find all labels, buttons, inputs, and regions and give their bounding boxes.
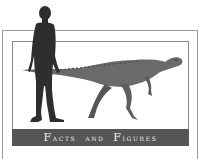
- facts-and-figures-banner: Facts and Figures: [12, 129, 189, 146]
- banner-word1-rest: acts: [53, 133, 76, 143]
- banner-word3-cap: F: [113, 131, 122, 144]
- human-silhouette-icon: [28, 6, 64, 122]
- cropped-heading-text: ▄▄ ▄▄ ▄ ▄: [40, 153, 173, 159]
- banner-word3-rest: igures: [123, 133, 158, 143]
- banner-word2: and: [85, 133, 104, 143]
- banner-word1-cap: F: [44, 131, 53, 144]
